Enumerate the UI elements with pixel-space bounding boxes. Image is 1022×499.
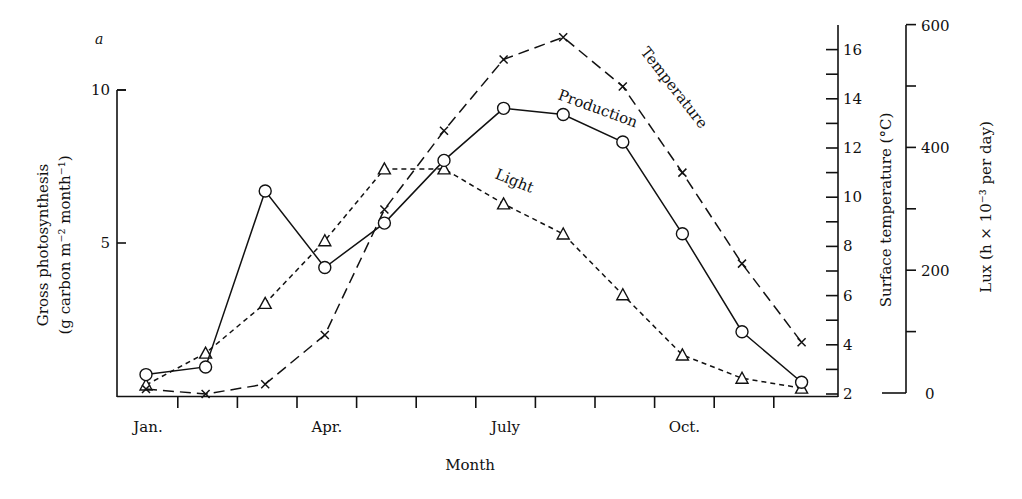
temperature-point <box>738 260 746 268</box>
light-point <box>617 289 629 300</box>
production-point <box>617 136 629 148</box>
temperature-tick-label: 4 <box>843 336 853 354</box>
light-point <box>736 372 748 383</box>
production-point <box>319 261 331 273</box>
temperature-point <box>261 380 269 388</box>
lux-tick-label: 400 <box>921 139 950 157</box>
temperature-point <box>321 331 329 339</box>
chart-canvas: a 510 Gross photosynthesis (g carbon m⁻²… <box>0 0 1022 499</box>
temperature-tick-label: 6 <box>843 287 853 305</box>
lux-tick-label: 200 <box>921 262 950 280</box>
temperature-tick-label: 14 <box>843 90 862 108</box>
production-point <box>438 154 450 166</box>
production-point <box>200 361 212 373</box>
x-tick-label: Oct. <box>669 418 701 436</box>
lux-axis: 0200400600 Lux (h × 10⁻³ per day) <box>882 17 995 403</box>
x-tick-label: July <box>489 418 520 436</box>
production-point <box>796 376 808 388</box>
temperature-point <box>678 169 686 177</box>
temperature-tick-label: 16 <box>843 41 862 59</box>
temperature-series <box>142 33 806 398</box>
left-tick-label: 5 <box>100 234 110 252</box>
light-point <box>259 297 271 308</box>
light-series <box>140 163 808 393</box>
chart: a 510 Gross photosynthesis (g carbon m⁻²… <box>0 0 1022 499</box>
lux-axis-title: Lux (h × 10⁻³ per day) <box>977 121 995 293</box>
production-point <box>140 369 152 381</box>
temperature-tick-label: 12 <box>843 139 862 157</box>
production-point <box>676 228 688 240</box>
temperature-point <box>619 83 627 91</box>
light-point <box>557 228 569 239</box>
lux-tick-label: 600 <box>921 17 950 35</box>
temperature-point <box>798 338 806 346</box>
x-tick-label: Apr. <box>310 418 342 436</box>
temperature-point <box>559 33 567 41</box>
left-tick-label: 10 <box>91 81 110 99</box>
production-point <box>498 102 510 114</box>
left-axis-title-line2: (g carbon m⁻² month⁻¹) <box>56 155 74 334</box>
x-axis: Jan.Apr.JulyOct. Month <box>117 396 838 474</box>
left-axis-title-line1: Gross photosynthesis <box>34 164 52 326</box>
production-label: Production <box>556 86 641 132</box>
production-point <box>557 108 569 120</box>
temperature-point <box>380 206 388 214</box>
production-point <box>378 217 390 229</box>
lux-tick-label: 0 <box>925 385 935 403</box>
temperature-axis-title: Surface temperature (°C) <box>877 113 895 308</box>
panel-label: a <box>95 31 103 47</box>
temperature-tick-label: 2 <box>843 385 853 403</box>
light-label: Light <box>493 165 537 197</box>
production-point <box>736 326 748 338</box>
left-y-axis: 510 Gross photosynthesis (g carbon m⁻² m… <box>34 81 126 397</box>
production-series <box>140 102 808 388</box>
light-point <box>498 198 510 209</box>
temperature-tick-label: 8 <box>843 237 853 255</box>
temperature-label: Temperature <box>637 43 712 132</box>
x-tick-label: Jan. <box>131 418 162 436</box>
x-axis-title: Month <box>445 456 495 474</box>
temperature-point <box>500 55 508 63</box>
production-point <box>259 185 271 197</box>
light-point <box>378 163 390 174</box>
temperature-tick-label: 10 <box>843 188 862 206</box>
temperature-point <box>440 127 448 135</box>
temperature-axis: 246810121416 Surface temperature (°C) <box>826 25 895 403</box>
